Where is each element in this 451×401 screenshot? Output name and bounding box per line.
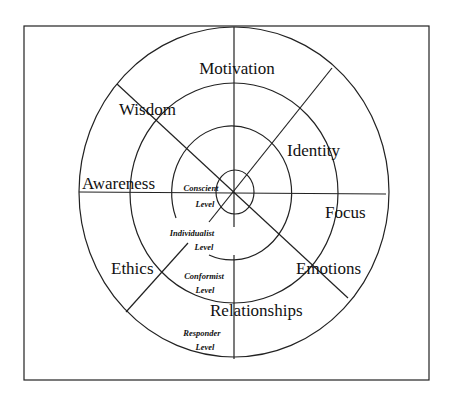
level-label-responder: Responder — [182, 328, 221, 338]
sector-label-motivation: Motivation — [199, 59, 275, 78]
ring-conscient — [216, 170, 254, 214]
level-label-conscient: Conscient — [184, 183, 220, 193]
sector-label-ethics: Ethics — [111, 259, 154, 278]
level-suffix-individualist: Level — [194, 242, 215, 252]
development-wheel-diagram: Motivation Wisdom Identity Awareness Foc… — [0, 0, 451, 401]
level-suffix-responder: Level — [195, 342, 216, 352]
sector-label-relationships: Relationships — [210, 301, 303, 320]
level-label-conformist: Conformist — [184, 271, 224, 281]
frame-border — [24, 26, 429, 380]
sector-label-awareness: Awareness — [82, 174, 155, 193]
sector-label-focus: Focus — [325, 203, 366, 222]
level-suffix-conscient: Level — [195, 199, 216, 209]
sector-label-emotions: Emotions — [296, 259, 361, 278]
level-label-individualist: Individualist — [169, 228, 215, 238]
level-suffix-conformist: Level — [195, 285, 216, 295]
sector-label-identity: Identity — [287, 141, 340, 160]
sector-label-wisdom: Wisdom — [119, 100, 176, 119]
